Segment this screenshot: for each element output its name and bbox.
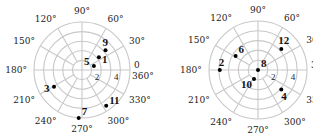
data-point-marker	[104, 104, 108, 108]
polar-chart-right: 330°60°90°120°150°180°210°240°270°300°33…	[180, 5, 313, 135]
data-point-marker	[77, 116, 81, 120]
angle-label: 330°	[129, 95, 151, 105]
data-point-marker	[252, 77, 256, 81]
data-point-label: 11	[109, 94, 119, 106]
data-point-marker	[97, 55, 101, 59]
data-point-label: 9	[103, 36, 109, 48]
angle-label: 90°	[74, 6, 90, 16]
angle-label: 120°	[210, 13, 232, 23]
data-point-label: 5	[84, 55, 90, 67]
data-point-label: 4	[281, 90, 287, 102]
angle-label: 60°	[108, 14, 124, 24]
angle-label: 3	[311, 60, 313, 70]
data-point-marker	[218, 68, 222, 72]
polar-plots-canvas: 0360°30°60°90°120°150°180°210°240°270°30…	[0, 0, 313, 135]
polar-plots-figure: 0360°30°60°90°120°150°180°210°240°270°30…	[0, 0, 313, 135]
angle-label: 0	[134, 60, 140, 70]
data-point-label: 3	[44, 82, 50, 94]
angle-label: 210°	[188, 95, 210, 105]
angle-label: 300°	[108, 116, 130, 126]
angle-label: 90°	[250, 5, 266, 15]
data-point-label: 12	[278, 34, 290, 46]
angle-label: 180°	[5, 65, 27, 75]
radius-tick-label: 4	[291, 72, 296, 82]
data-point-marker	[256, 68, 260, 72]
angle-label: 300°	[284, 117, 306, 127]
radius-tick-label: 4	[114, 72, 119, 82]
angle-label: 210°	[13, 95, 35, 105]
data-point-marker	[279, 47, 283, 51]
angle-label: 270°	[247, 125, 269, 135]
data-point-label: 6	[239, 43, 245, 55]
angle-label: 30°	[306, 35, 313, 45]
data-point-label: 10	[241, 78, 253, 90]
angle-label: 60°	[284, 13, 300, 23]
angle-label: 240°	[35, 116, 57, 126]
angle-label: 150°	[13, 36, 35, 46]
angle-label: 30°	[129, 36, 145, 46]
data-point-marker	[104, 48, 108, 52]
angle-label: 33	[306, 95, 313, 105]
radius-tick-label: 2	[95, 72, 100, 82]
data-point-marker	[234, 54, 238, 58]
angle-label: 240°	[210, 117, 232, 127]
data-point-label: 1	[102, 53, 108, 65]
angle-label: 360°	[132, 71, 154, 81]
angle-label: 150°	[188, 35, 210, 45]
data-point-label: 7	[82, 105, 88, 117]
polar-chart-left: 0360°30°60°90°120°150°180°210°240°270°30…	[5, 6, 153, 134]
data-point-label: 2	[219, 56, 225, 68]
angle-label: 120°	[35, 14, 57, 24]
data-point-marker	[92, 64, 96, 68]
data-point-marker	[52, 85, 56, 89]
angle-label: 270°	[71, 124, 93, 134]
angle-label: 180°	[180, 65, 202, 75]
radius-tick-label: 2	[271, 72, 276, 82]
data-point-label: 8	[261, 57, 267, 69]
